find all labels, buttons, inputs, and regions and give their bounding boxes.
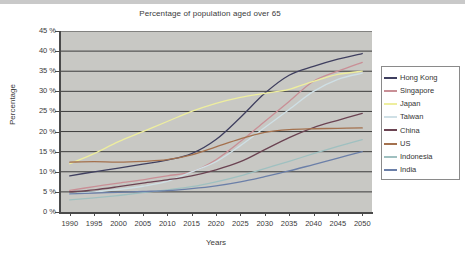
- y-tick-mark: [55, 212, 59, 213]
- legend-item-us[interactable]: US: [384, 137, 459, 150]
- series-line-japan: [70, 71, 363, 164]
- x-tick-mark: [216, 212, 217, 216]
- legend-item-label: Japan: [400, 100, 420, 108]
- legend-item-label: Taiwan: [400, 113, 423, 121]
- y-tick-label: 20 %: [16, 127, 56, 136]
- legend-item-label: Singapore: [400, 87, 434, 95]
- legend-swatch-icon: [384, 77, 397, 79]
- plot-area: [60, 31, 372, 212]
- x-axis-tick-labels: 1990199520002005201020152020202520302035…: [0, 219, 465, 233]
- y-tick-label: 0 %: [16, 207, 56, 216]
- legend-item-label: China: [400, 127, 420, 135]
- y-tick-mark: [55, 71, 59, 72]
- y-tick-label: 5 %: [16, 187, 56, 196]
- y-tick-label: 30 %: [16, 86, 56, 95]
- y-tick-mark: [55, 132, 59, 133]
- x-tick-mark: [167, 212, 168, 216]
- x-tick-mark: [70, 212, 71, 216]
- legend-item-label: Indonesia: [400, 153, 433, 161]
- x-tick-mark: [119, 212, 120, 216]
- y-axis-title: Percentage: [8, 65, 17, 145]
- x-tick-mark: [338, 212, 339, 216]
- legend-swatch-icon: [384, 129, 397, 131]
- y-tick-mark: [55, 152, 59, 153]
- y-tick-label: 10 %: [16, 167, 56, 176]
- plot-svg: [60, 31, 372, 212]
- y-tick-label: 45 %: [16, 26, 56, 35]
- legend-swatch-icon: [384, 90, 397, 92]
- series-lines: [70, 54, 363, 200]
- chart-title: Percentage of population aged over 65: [60, 9, 360, 18]
- x-tick-mark: [143, 212, 144, 216]
- y-tick-mark: [55, 192, 59, 193]
- y-tick-label: 35 %: [16, 66, 56, 75]
- x-tick-label: 2050: [347, 219, 377, 228]
- y-tick-label: 25 %: [16, 106, 56, 115]
- legend-item-singapore[interactable]: Singapore: [384, 84, 459, 97]
- x-tick-mark: [240, 212, 241, 216]
- series-line-us: [70, 128, 363, 162]
- x-tick-mark: [94, 212, 95, 216]
- legend-swatch-icon: [384, 143, 397, 145]
- x-tick-mark: [314, 212, 315, 216]
- legend-item-hong-kong[interactable]: Hong Kong: [384, 71, 459, 84]
- y-axis-line: [59, 31, 61, 213]
- x-tick-mark: [289, 212, 290, 216]
- legend-swatch-icon: [384, 156, 397, 158]
- y-tick-mark: [55, 111, 59, 112]
- series-line-hong-kong: [70, 54, 363, 176]
- legend-item-indonesia[interactable]: Indonesia: [384, 150, 459, 163]
- legend-item-india[interactable]: India: [384, 163, 459, 176]
- legend-item-japan[interactable]: Japan: [384, 97, 459, 110]
- legend-swatch-icon: [384, 103, 397, 105]
- x-tick-mark: [362, 212, 363, 216]
- line-chart-figure: Percentage of population aged over 65 0 …: [0, 0, 465, 259]
- legend-item-label: US: [400, 140, 410, 148]
- y-tick-mark: [55, 172, 59, 173]
- gridlines: [60, 31, 372, 192]
- legend-swatch-icon: [384, 169, 397, 171]
- x-tick-mark: [192, 212, 193, 216]
- y-tick-mark: [55, 51, 59, 52]
- legend-item-taiwan[interactable]: Taiwan: [384, 111, 459, 124]
- legend-item-china[interactable]: China: [384, 124, 459, 137]
- x-axis-title: Years: [60, 238, 372, 247]
- chart-legend: Hong KongSingaporeJapanTaiwanChinaUSIndo…: [381, 66, 460, 180]
- legend-item-label: Hong Kong: [400, 74, 438, 82]
- legend-swatch-icon: [384, 116, 397, 118]
- legend-item-label: India: [400, 166, 416, 174]
- y-tick-label: 15 %: [16, 147, 56, 156]
- x-tick-mark: [265, 212, 266, 216]
- y-tick-mark: [55, 31, 59, 32]
- y-tick-mark: [55, 91, 59, 92]
- y-tick-label: 40 %: [16, 46, 56, 55]
